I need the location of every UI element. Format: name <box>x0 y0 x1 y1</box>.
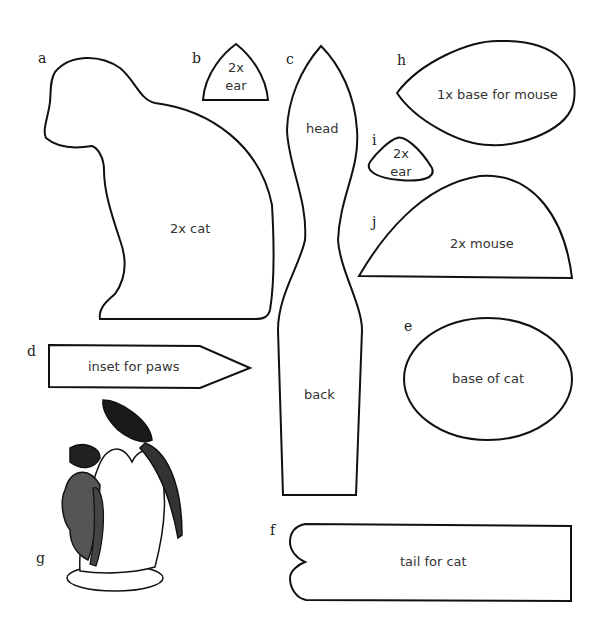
piece-g-assembled-illustration <box>62 400 182 591</box>
piece-c-head-back-shape <box>278 46 362 495</box>
piece-letter-e: e <box>404 319 412 333</box>
piece-j-label: 2x mouse <box>450 235 514 253</box>
piece-i-label-line2: ear <box>389 163 413 181</box>
piece-b-label-line1: 2x <box>224 59 248 77</box>
piece-j-mouse-shape <box>359 176 572 278</box>
piece-c-label-head: head <box>306 120 338 138</box>
piece-f-label: tail for cat <box>400 553 467 571</box>
piece-letter-h: h <box>397 53 406 67</box>
piece-letter-j: j <box>372 215 376 229</box>
piece-b-label-line2: ear <box>224 77 248 95</box>
piece-h-label: 1x base for mouse <box>437 86 558 104</box>
piece-e-label: base of cat <box>452 370 524 388</box>
piece-i-label-line1: 2x <box>389 145 413 163</box>
piece-letter-f: f <box>270 523 275 537</box>
piece-i-label: 2x ear <box>389 145 413 180</box>
piece-letter-g: g <box>36 551 45 565</box>
piece-letter-d: d <box>27 344 36 358</box>
piece-c-label-back: back <box>304 386 335 404</box>
piece-a-label: 2x cat <box>170 220 210 238</box>
piece-letter-b: b <box>192 51 201 65</box>
piece-d-label: inset for paws <box>88 358 179 376</box>
piece-b-label: 2x ear <box>224 59 248 94</box>
piece-letter-a: a <box>38 51 46 65</box>
piece-letter-i: i <box>372 133 376 147</box>
piece-letter-c: c <box>286 52 294 66</box>
pattern-sheet: a b c h i j d e f g 2x cat 2x ear head b… <box>0 0 605 639</box>
